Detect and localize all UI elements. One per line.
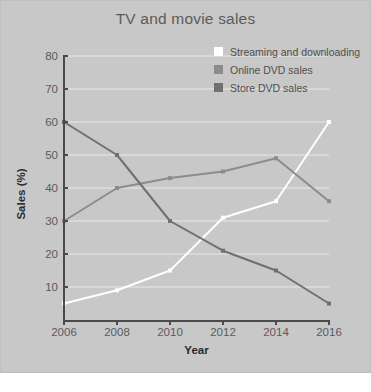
y-tick-label: 70 bbox=[24, 83, 58, 95]
y-tick-label: 40 bbox=[24, 182, 58, 194]
chart-legend: Streaming and downloadingOnline DVD sale… bbox=[214, 44, 364, 98]
y-tick-mark bbox=[63, 88, 68, 90]
data-point-marker bbox=[221, 170, 225, 174]
legend-label: Store DVD sales bbox=[230, 82, 308, 94]
x-tick-label: 2006 bbox=[39, 326, 89, 338]
y-tick-mark bbox=[63, 55, 68, 57]
data-point-marker bbox=[168, 176, 172, 180]
data-point-marker bbox=[168, 269, 172, 273]
data-point-marker bbox=[274, 156, 278, 160]
y-tick-label: 50 bbox=[24, 149, 58, 161]
y-tick-label: 60 bbox=[24, 116, 58, 128]
legend-label: Online DVD sales bbox=[230, 64, 313, 76]
x-tick-label: 2010 bbox=[145, 326, 195, 338]
legend-swatch-icon bbox=[214, 47, 223, 56]
x-tick-mark bbox=[275, 320, 277, 325]
legend-item-0[interactable]: Streaming and downloading bbox=[214, 44, 364, 59]
y-axis-label: Sales (%) bbox=[15, 149, 27, 239]
y-tick-mark bbox=[63, 286, 68, 288]
data-point-marker bbox=[115, 153, 119, 157]
y-tick-label: 30 bbox=[24, 215, 58, 227]
legend-swatch-icon bbox=[214, 65, 223, 74]
data-point-marker bbox=[115, 186, 119, 190]
x-tick-mark bbox=[169, 320, 171, 325]
y-tick-mark bbox=[63, 187, 68, 189]
x-tick-label: 2016 bbox=[304, 326, 354, 338]
x-tick-mark bbox=[116, 320, 118, 325]
legend-item-1[interactable]: Online DVD sales bbox=[214, 62, 364, 77]
data-point-marker bbox=[168, 219, 172, 223]
x-tick-mark bbox=[63, 320, 65, 325]
series-line-1 bbox=[64, 158, 329, 221]
x-tick-label: 2014 bbox=[251, 326, 301, 338]
y-tick-mark bbox=[63, 220, 68, 222]
x-tick-label: 2012 bbox=[198, 326, 248, 338]
y-tick-mark bbox=[63, 154, 68, 156]
legend-swatch-icon bbox=[214, 83, 223, 92]
figure: TV and movie sales 1020304050607080 2006… bbox=[0, 0, 371, 392]
data-point-marker bbox=[327, 302, 331, 306]
legend-label: Streaming and downloading bbox=[230, 46, 360, 58]
x-tick-label: 2008 bbox=[92, 326, 142, 338]
data-point-marker bbox=[274, 269, 278, 273]
x-tick-mark bbox=[222, 320, 224, 325]
data-point-marker bbox=[221, 216, 225, 220]
x-axis-label: Year bbox=[64, 344, 329, 356]
y-tick-label: 20 bbox=[24, 248, 58, 260]
data-point-marker bbox=[327, 120, 331, 124]
x-tick-mark bbox=[328, 320, 330, 325]
data-point-marker bbox=[327, 199, 331, 203]
y-tick-mark bbox=[63, 121, 68, 123]
series-line-2 bbox=[64, 122, 329, 304]
legend-item-2[interactable]: Store DVD sales bbox=[214, 80, 364, 95]
series-line-0 bbox=[64, 122, 329, 304]
data-point-marker bbox=[115, 288, 119, 292]
x-axis-spine bbox=[63, 320, 330, 322]
y-tick-label: 80 bbox=[24, 50, 58, 62]
data-point-marker bbox=[221, 249, 225, 253]
data-point-marker bbox=[274, 199, 278, 203]
y-tick-mark bbox=[63, 253, 68, 255]
y-tick-label: 10 bbox=[24, 281, 58, 293]
